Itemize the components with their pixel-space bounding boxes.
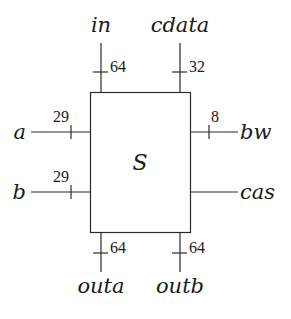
port-label-a: a bbox=[13, 120, 26, 144]
port-label-b: b bbox=[13, 180, 26, 204]
block-diagram: S in 64 cdata 32 a 29 b 29 8 bw cas bbox=[0, 0, 291, 319]
port-b: b 29 bbox=[13, 168, 91, 204]
bus-width-outa: 64 bbox=[110, 239, 126, 256]
port-label-in: in bbox=[91, 13, 111, 37]
port-label-bw: bw bbox=[240, 120, 271, 144]
bus-width-bw: 8 bbox=[211, 108, 219, 125]
port-label-outa: outa bbox=[77, 274, 124, 298]
port-cdata: cdata 32 bbox=[151, 13, 210, 93]
port-outb: 64 outb bbox=[156, 233, 205, 299]
port-label-cdata: cdata bbox=[151, 13, 210, 37]
port-label-outb: outb bbox=[156, 274, 204, 298]
bus-width-in: 64 bbox=[110, 58, 126, 75]
module-name: S bbox=[132, 150, 147, 175]
port-cas: cas bbox=[191, 180, 276, 204]
bus-width-cdata: 32 bbox=[189, 58, 205, 75]
port-label-cas: cas bbox=[240, 180, 275, 204]
port-in: in 64 bbox=[91, 13, 126, 93]
bus-width-b: 29 bbox=[53, 168, 69, 185]
port-bw: 8 bw bbox=[191, 108, 272, 144]
bus-width-a: 29 bbox=[53, 108, 69, 125]
bus-width-outb: 64 bbox=[189, 239, 205, 256]
port-a: a 29 bbox=[13, 108, 90, 144]
port-outa: 64 outa bbox=[77, 233, 126, 299]
